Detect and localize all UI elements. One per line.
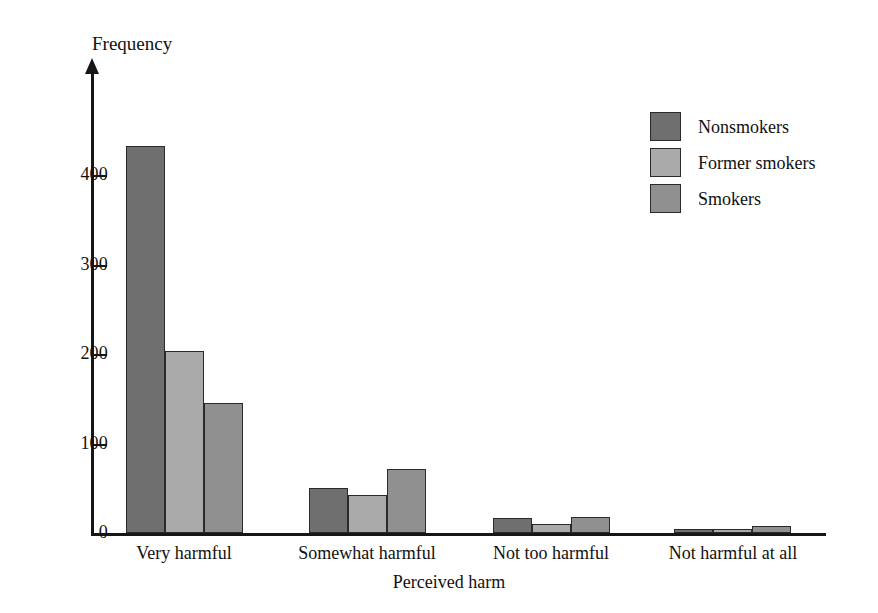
bar [309, 488, 348, 533]
legend-swatch [650, 112, 681, 141]
x-axis-label: Not harmful at all [623, 543, 843, 564]
bar-chart: Frequency 0100200300400 Very harmfulSome… [0, 0, 878, 613]
bar [204, 403, 243, 533]
bar [674, 529, 713, 533]
legend-swatch [650, 148, 681, 177]
bar [126, 146, 165, 533]
legend-item: Nonsmokers [650, 110, 865, 143]
x-axis-title-text: Perceived harm [393, 572, 505, 592]
bar [348, 495, 387, 533]
legend-item: Former smokers [650, 146, 865, 179]
bar [752, 526, 791, 533]
legend-swatch [650, 184, 681, 213]
legend-item: Smokers [650, 182, 865, 215]
bar [165, 351, 204, 533]
legend-label: Nonsmokers [698, 117, 789, 137]
x-axis-title: Perceived harm [0, 571, 878, 593]
bar [571, 517, 610, 533]
bar [532, 524, 571, 533]
legend-label: Former smokers [698, 153, 815, 173]
legend: NonsmokersFormer smokersSmokers [650, 110, 865, 218]
legend-label: Smokers [698, 189, 761, 209]
plot-area [0, 0, 878, 613]
bar [387, 469, 426, 533]
bar [713, 529, 752, 533]
bar [493, 518, 532, 533]
